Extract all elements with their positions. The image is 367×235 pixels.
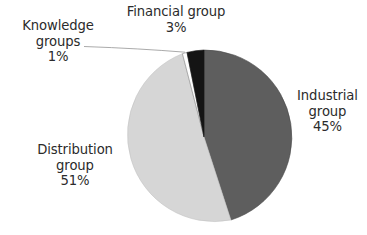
slice-label-knowledge-line2: groups — [2, 34, 114, 50]
slice-label-distribution-line2: group — [18, 158, 132, 174]
pie-chart: Knowledge groups 1% Financial group 3% I… — [0, 0, 367, 235]
slice-value-industrial: 45% — [288, 119, 367, 135]
slice-label-knowledge: Knowledge groups 1% — [2, 18, 114, 65]
slice-label-financial: Financial group 3% — [112, 4, 240, 35]
slice-label-industrial-line2: group — [288, 104, 367, 120]
slice-value-knowledge: 1% — [2, 49, 114, 65]
slice-label-distribution: Distribution group 51% — [18, 142, 132, 189]
slice-value-financial: 3% — [112, 20, 240, 36]
slice-label-financial-line1: Financial group — [112, 4, 240, 20]
slice-label-knowledge-line1: Knowledge — [2, 18, 114, 34]
slice-label-industrial: Industrial group 45% — [288, 88, 367, 135]
slice-label-industrial-line1: Industrial — [288, 88, 367, 104]
slice-label-distribution-line1: Distribution — [18, 142, 132, 158]
slice-value-distribution: 51% — [18, 173, 132, 189]
